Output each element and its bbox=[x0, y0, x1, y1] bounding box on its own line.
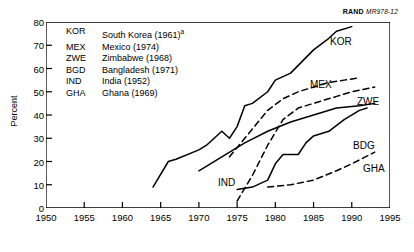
legend-name: Zimbabwe (1968) bbox=[102, 53, 184, 65]
x-tick-label: 1995 bbox=[370, 212, 410, 223]
legend-row: GHAGhana (1969) bbox=[66, 88, 184, 100]
legend-row: KORSouth Korea (1961)a bbox=[66, 26, 184, 42]
legend-footnote-marker: a bbox=[181, 28, 185, 35]
source-id: MR978-12 bbox=[366, 8, 398, 15]
series-line-gha bbox=[268, 152, 375, 187]
y-tick-label: 40 bbox=[18, 110, 44, 121]
y-tick-label: 20 bbox=[18, 156, 44, 167]
legend-table: KORSouth Korea (1961)aMEXMexico (1974)ZW… bbox=[66, 26, 184, 100]
legend-name: Ghana (1969) bbox=[102, 88, 184, 100]
figure: RAND MR978-12 Percent 01020304050607080 … bbox=[0, 0, 414, 252]
y-tick-label: 10 bbox=[18, 179, 44, 190]
legend: KORSouth Korea (1961)aMEXMexico (1974)ZW… bbox=[66, 26, 184, 100]
x-tick-label: 1960 bbox=[102, 212, 142, 223]
x-tick-label: 1975 bbox=[217, 212, 257, 223]
legend-code: IND bbox=[66, 76, 102, 88]
x-tick-label: 1955 bbox=[64, 212, 104, 223]
x-tick-label: 1970 bbox=[179, 212, 219, 223]
series-line-bdg bbox=[237, 108, 367, 189]
series-label-gha: GHA bbox=[363, 163, 385, 174]
legend-code: BGD bbox=[66, 65, 102, 77]
x-tick-label: 1990 bbox=[332, 212, 372, 223]
legend-name: South Korea (1961)a bbox=[102, 26, 184, 42]
source-credit: RAND MR978-12 bbox=[343, 8, 398, 15]
x-tick-label: 1980 bbox=[255, 212, 295, 223]
y-tick-label: 80 bbox=[18, 17, 44, 28]
legend-name: Mexico (1974) bbox=[102, 42, 184, 54]
x-tick-label: 1965 bbox=[141, 212, 181, 223]
legend-name: India (1952) bbox=[102, 76, 184, 88]
legend-row: MEXMexico (1974) bbox=[66, 42, 184, 54]
series-label-bdg: BDG bbox=[353, 140, 375, 151]
series-label-ind: IND bbox=[218, 177, 235, 188]
legend-row: INDIndia (1952) bbox=[66, 76, 184, 88]
x-axis-ticks: 1950195519601965197019751980198519901995 bbox=[46, 212, 390, 232]
series-label-kor: KOR bbox=[330, 36, 352, 47]
y-tick-label: 60 bbox=[18, 63, 44, 74]
legend-name: Bangladesh (1971) bbox=[102, 65, 184, 77]
series-label-zwe: ZWE bbox=[357, 96, 379, 107]
y-tick-label: 50 bbox=[18, 86, 44, 97]
legend-code: KOR bbox=[66, 26, 102, 42]
legend-row: BGDBangladesh (1971) bbox=[66, 65, 184, 77]
x-tick-label: 1950 bbox=[26, 212, 66, 223]
source-brand: RAND bbox=[343, 8, 364, 15]
x-tick-label: 1985 bbox=[294, 212, 334, 223]
series-label-mex: MEX bbox=[310, 79, 332, 90]
y-tick-label: 30 bbox=[18, 133, 44, 144]
y-tick-label: 70 bbox=[18, 40, 44, 51]
legend-code: MEX bbox=[66, 42, 102, 54]
series-line-ind bbox=[199, 103, 375, 170]
legend-row: ZWEZimbabwe (1968) bbox=[66, 53, 184, 65]
legend-code: ZWE bbox=[66, 53, 102, 65]
series-line-mex bbox=[229, 78, 359, 157]
legend-code: GHA bbox=[66, 88, 102, 100]
